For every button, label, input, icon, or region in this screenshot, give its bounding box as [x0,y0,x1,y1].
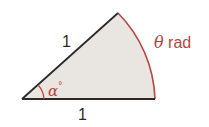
top-radius-label: 1 [62,34,71,50]
rad-unit: rad [168,34,191,51]
sector-fill [22,13,155,99]
theta-symbol: θ [154,33,164,52]
angle-alpha-label: α° [48,83,62,101]
degree-symbol: ° [58,80,62,91]
sector-drawing [0,0,209,127]
alpha-symbol: α [48,82,58,100]
bottom-radius-label: 1 [78,107,87,123]
arc-theta-label: θ rad [154,35,191,51]
